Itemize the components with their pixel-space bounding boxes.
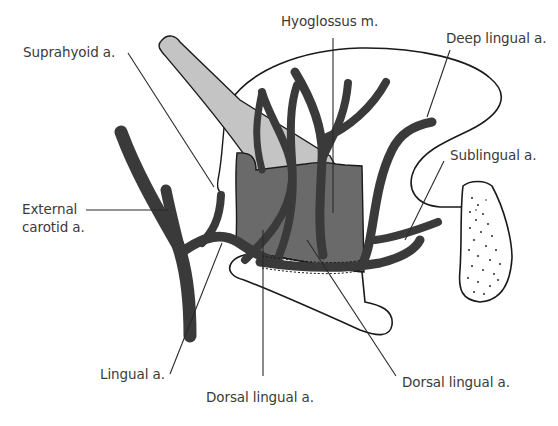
label-dorsal-lingual-artery-1: Dorsal lingual a. [206,389,314,405]
label-external-carotid-artery: External carotid a. [22,201,85,235]
label-external-carotid-line2: carotid a. [22,219,85,235]
label-deep-lingual-artery: Deep lingual a. [446,30,546,46]
leader-deep-lingual [427,50,450,117]
label-hyoglossus-muscle: Hyoglossus m. [281,13,378,29]
carotid-inner-branch [166,190,180,250]
label-dorsal-lingual-artery-2: Dorsal lingual a. [402,374,510,390]
label-sublingual-artery: Sublingual a. [450,147,536,163]
dorsal-lingual-central-b2 [325,82,386,138]
label-suprahyoid-artery: Suprahyoid a. [23,44,115,60]
label-external-carotid-line1: External [22,201,85,217]
label-lingual-artery: Lingual a. [100,366,165,382]
dorsal-lingual-central-b1 [322,83,348,160]
